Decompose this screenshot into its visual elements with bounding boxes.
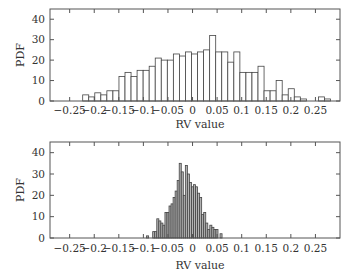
x-tick-label: 0.1: [233, 242, 250, 254]
x-tick-label: 0.15: [255, 104, 278, 116]
x-tick-label: 0.05: [205, 242, 228, 254]
x-tick-label: 0.2: [282, 104, 299, 116]
y-tick-label: 10: [32, 74, 45, 86]
histogram-bar: [161, 60, 167, 101]
x-tick-label: −0.05: [152, 104, 184, 116]
histogram-bar: [119, 76, 125, 101]
histogram-bar: [137, 70, 143, 101]
histogram-bar: [228, 62, 234, 101]
x-tick-label: 0.05: [205, 104, 228, 116]
histogram-bar: [220, 234, 222, 238]
histogram-bars: [83, 36, 331, 101]
histogram-bar: [125, 72, 131, 101]
histogram-bar: [204, 50, 210, 101]
histogram-bar: [83, 95, 89, 101]
y-tick-label: 40: [32, 146, 45, 158]
histogram-bar: [282, 95, 288, 101]
histogram-bar: [258, 66, 264, 101]
histogram-bar: [222, 52, 228, 101]
histogram-bar: [210, 36, 216, 101]
y-tick-label: 0: [38, 232, 45, 244]
histogram-bars: [147, 163, 222, 238]
x-tick-label: 0.25: [304, 242, 327, 254]
histogram-bar: [173, 54, 179, 101]
histogram-bar: [143, 70, 149, 101]
x-tick-label: 0.25: [304, 104, 327, 116]
histogram-bar: [113, 91, 119, 101]
histogram-bar: [276, 81, 282, 101]
histogram-bar: [294, 97, 300, 101]
x-axis-title: RV value: [175, 118, 224, 131]
histogram-bar: [192, 54, 198, 101]
histogram-bar: [198, 52, 204, 101]
histogram-panel-1: −0.25−0.2−0.15−0.1−0.0500.050.10.150.20.…: [14, 9, 340, 131]
histogram-bar: [107, 91, 113, 101]
histogram-bar: [149, 66, 155, 101]
x-tick-label: 0: [189, 104, 196, 116]
histogram-bar: [216, 52, 222, 101]
y-tick-label: 0: [38, 95, 45, 107]
x-tick-label: 0.2: [282, 242, 299, 254]
histogram-bar: [155, 58, 161, 101]
x-axis-title: RV value: [175, 259, 224, 272]
histogram-bar: [264, 91, 270, 101]
histogram-panel-2: −0.25−0.2−0.15−0.1−0.0500.050.10.150.20.…: [14, 142, 340, 272]
histogram-bar: [179, 56, 185, 101]
y-tick-label: 20: [32, 54, 45, 66]
histogram-bar: [167, 60, 173, 101]
x-tick-label: 0.15: [255, 242, 278, 254]
histogram-bar: [101, 95, 107, 101]
histogram-figure: −0.25−0.2−0.15−0.1−0.0500.050.10.150.20.…: [0, 0, 358, 277]
histogram-bar: [270, 91, 276, 101]
x-tick-label: 0: [189, 242, 196, 254]
histogram-bar: [252, 72, 258, 101]
x-tick-label: 0.1: [233, 104, 250, 116]
histogram-bar: [240, 72, 246, 101]
y-tick-label: 10: [32, 210, 45, 222]
histogram-bar: [185, 52, 191, 101]
y-axis-title: PDF: [14, 43, 27, 67]
histogram-bar: [95, 93, 101, 101]
y-tick-label: 30: [32, 33, 45, 45]
histogram-bar: [246, 72, 252, 101]
x-tick-label: −0.05: [152, 242, 184, 254]
y-tick-label: 20: [32, 189, 45, 201]
y-tick-label: 40: [32, 13, 45, 25]
histogram-bar: [234, 52, 240, 101]
y-tick-label: 30: [32, 168, 45, 180]
histogram-bar: [131, 76, 137, 101]
histogram-bar: [318, 97, 324, 101]
y-axis-title: PDF: [14, 178, 27, 202]
